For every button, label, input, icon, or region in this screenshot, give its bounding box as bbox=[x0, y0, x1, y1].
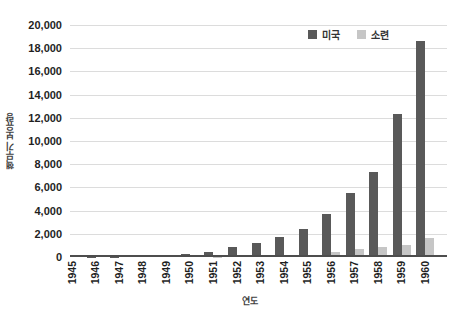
y-tick-label: 0 bbox=[56, 251, 62, 263]
y-tick-label: 16,000 bbox=[28, 65, 62, 77]
x-tick-label: 1956 bbox=[325, 261, 337, 284]
x-tick-label: 1952 bbox=[231, 261, 243, 284]
legend: 미국 소련 bbox=[308, 27, 389, 42]
legend-item-usa: 미국 bbox=[308, 27, 340, 42]
gridline bbox=[70, 95, 447, 96]
y-tick-label: 2,000 bbox=[34, 228, 62, 240]
x-tick-label: 1957 bbox=[348, 261, 360, 284]
x-tick-label: 1951 bbox=[207, 261, 219, 284]
bar-chart: 핵무기 보유량 02,0004,0006,0008,00010,00012,00… bbox=[0, 0, 450, 316]
legend-swatch-usa bbox=[308, 30, 317, 39]
bar-미국-1959 bbox=[393, 114, 402, 257]
legend-label-ussr: 소련 bbox=[371, 27, 389, 42]
legend-swatch-ussr bbox=[357, 30, 366, 39]
x-axis-line bbox=[70, 255, 447, 257]
x-tick-label: 1954 bbox=[278, 261, 290, 284]
gridline bbox=[70, 187, 447, 188]
x-tick-label: 1947 bbox=[113, 261, 125, 284]
legend-label-usa: 미국 bbox=[322, 27, 340, 42]
x-tick-label: 1948 bbox=[136, 261, 148, 284]
bar-미국-1957 bbox=[346, 193, 355, 257]
y-tick-label: 10,000 bbox=[28, 135, 62, 147]
bar-미국-1956 bbox=[322, 214, 331, 257]
gridline bbox=[70, 118, 447, 119]
gridline bbox=[70, 25, 447, 26]
bar-미국-1960 bbox=[416, 41, 425, 257]
x-axis-labels: 1945194619471948194919501951195219531954… bbox=[70, 261, 447, 294]
gridline bbox=[70, 211, 447, 212]
x-tick-label: 1950 bbox=[183, 261, 195, 284]
y-tick-label: 18,000 bbox=[28, 42, 62, 54]
x-tick-label: 1955 bbox=[301, 261, 313, 284]
y-tick-label: 6,000 bbox=[34, 181, 62, 193]
x-tick-label: 1953 bbox=[254, 261, 266, 284]
y-tick-label: 20,000 bbox=[28, 19, 62, 31]
x-axis-title: 연도 bbox=[70, 294, 430, 307]
x-tick-label: 1949 bbox=[160, 261, 172, 284]
gridline bbox=[70, 48, 447, 49]
gridline bbox=[70, 71, 447, 72]
y-tick-label: 12,000 bbox=[28, 112, 62, 124]
y-tick-label: 4,000 bbox=[34, 205, 62, 217]
y-axis-labels: 02,0004,0006,0008,00010,00012,00014,0001… bbox=[0, 25, 62, 257]
x-tick-label: 1945 bbox=[66, 261, 78, 284]
x-tick-label: 1959 bbox=[395, 261, 407, 284]
gridline bbox=[70, 141, 447, 142]
gridline bbox=[70, 164, 447, 165]
x-tick-label: 1946 bbox=[89, 261, 101, 284]
gridline bbox=[70, 234, 447, 235]
plot-area bbox=[70, 25, 447, 257]
x-tick-label: 1958 bbox=[372, 261, 384, 284]
x-tick-label: 1960 bbox=[419, 261, 431, 284]
y-tick-label: 14,000 bbox=[28, 89, 62, 101]
bar-미국-1955 bbox=[299, 229, 308, 257]
legend-item-ussr: 소련 bbox=[357, 27, 389, 42]
y-tick-label: 8,000 bbox=[34, 158, 62, 170]
bar-미국-1958 bbox=[369, 172, 378, 257]
